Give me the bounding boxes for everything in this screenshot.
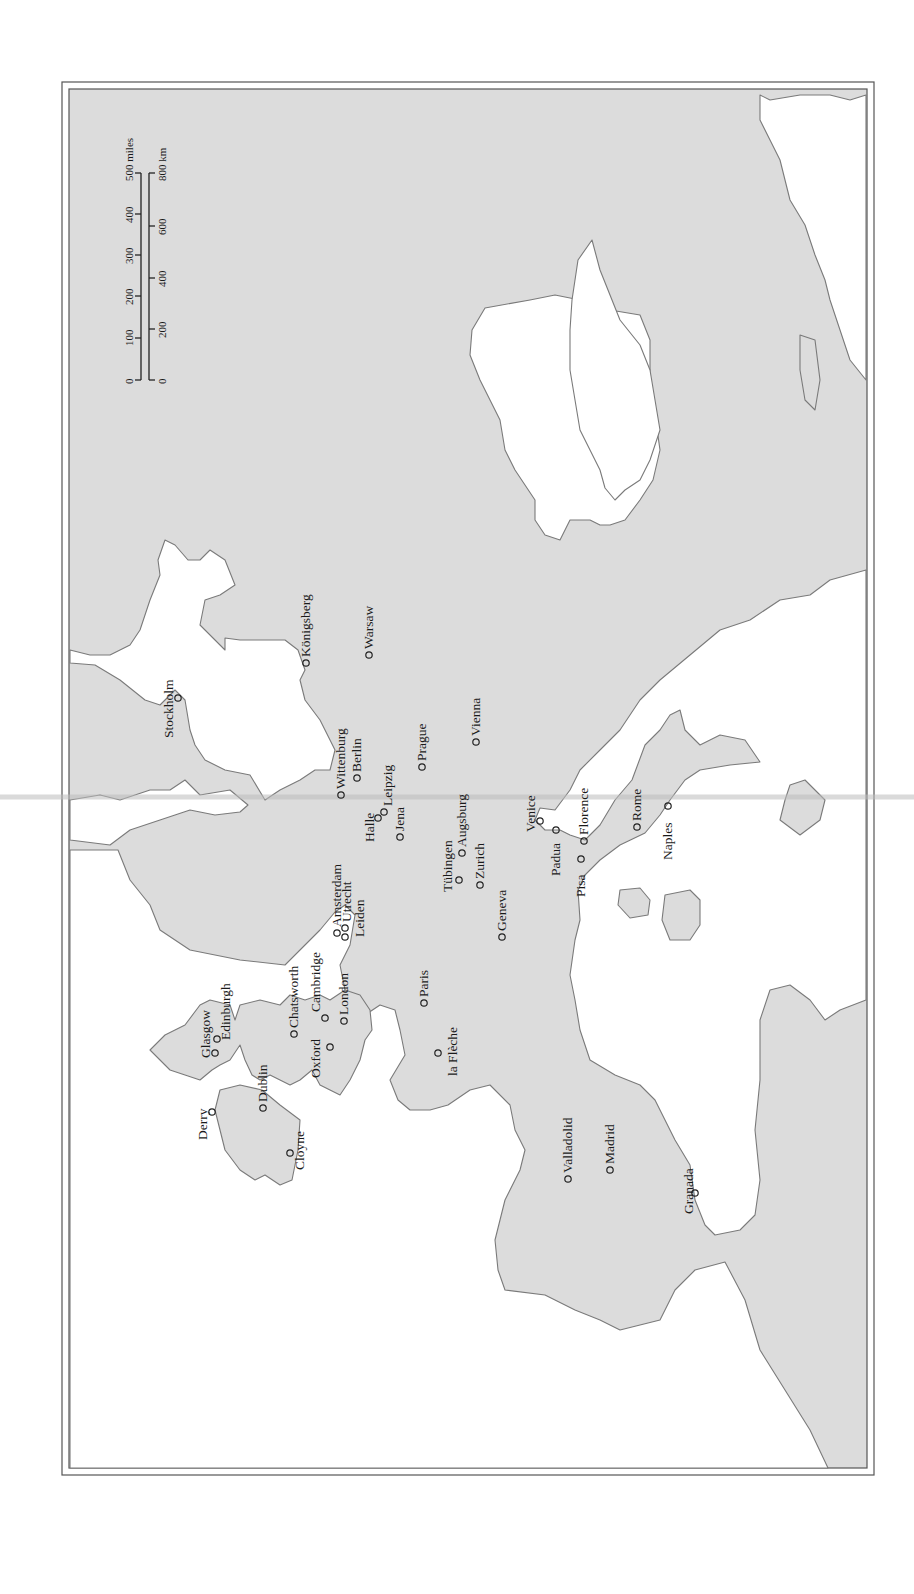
svg-text:Tübingen: Tübingen — [440, 840, 455, 892]
city-florence: Florence — [576, 788, 591, 844]
city-augsburg: Augsburg — [454, 794, 469, 856]
svg-text:Padua: Padua — [548, 843, 563, 876]
svg-text:Dublin: Dublin — [255, 1064, 270, 1102]
city-wittenburg: Wittenburg — [333, 728, 348, 798]
svg-text:Florence: Florence — [576, 788, 591, 835]
city-chatsworth: Chatsworth — [286, 966, 301, 1038]
svg-text:Geneva: Geneva — [494, 890, 509, 931]
europe-map: 0 100 200 300 400 500 miles 0 200 400 60… — [0, 0, 914, 1594]
svg-text:Stockholm: Stockholm — [161, 679, 176, 738]
svg-text:Halle: Halle — [362, 813, 377, 842]
svg-text:Venice: Venice — [523, 795, 538, 832]
svg-text:la Flèche: la Flèche — [445, 1027, 460, 1076]
svg-text:Prague: Prague — [414, 724, 429, 762]
svg-text:Naples: Naples — [660, 823, 675, 861]
scale-miles-tick-300: 300 — [123, 247, 135, 264]
svg-text:Edinburgh: Edinburgh — [218, 983, 233, 1040]
scale-miles-unit: 500 miles — [123, 138, 135, 181]
scale-miles-tick-400: 400 — [123, 206, 135, 223]
svg-text:Berlin: Berlin — [349, 738, 364, 772]
svg-text:Madrid: Madrid — [602, 1124, 617, 1164]
svg-text:Wittenburg: Wittenburg — [333, 728, 348, 789]
svg-text:Granada: Granada — [681, 1168, 696, 1214]
svg-text:Cambridge: Cambridge — [308, 952, 323, 1012]
svg-text:Vienna: Vienna — [468, 698, 483, 736]
scale-km-tick-400: 400 — [156, 270, 168, 287]
svg-text:Rome: Rome — [629, 789, 644, 821]
svg-text:Pisa: Pisa — [573, 874, 588, 897]
city-granada: Granada — [681, 1168, 698, 1214]
svg-text:Paris: Paris — [416, 970, 431, 997]
scale-km-tick-200: 200 — [156, 321, 168, 338]
svg-text:London: London — [336, 973, 351, 1015]
svg-text:Valladolid: Valladolid — [560, 1117, 575, 1173]
scale-km-tick-0: 0 — [156, 378, 168, 384]
svg-text:Cloyne: Cloyne — [292, 1131, 307, 1170]
svg-text:Jena: Jena — [392, 807, 407, 831]
svg-text:Warsaw: Warsaw — [361, 606, 376, 649]
svg-text:Leiden: Leiden — [352, 899, 367, 937]
scale-miles-tick-0: 0 — [123, 378, 135, 384]
city-valladolid: Valladolid — [560, 1117, 575, 1182]
scale-miles-tick-200: 200 — [123, 288, 135, 305]
svg-text:Augsburg: Augsburg — [454, 794, 469, 847]
svg-text:Oxford: Oxford — [308, 1039, 323, 1078]
scale-km-tick-600: 600 — [156, 218, 168, 235]
svg-text:Derry: Derry — [195, 1108, 210, 1140]
svg-text:Glasgow: Glasgow — [198, 1010, 213, 1058]
svg-text:Zurich: Zurich — [472, 843, 487, 879]
sardinia — [662, 890, 700, 940]
city-konigsberg: Königsberg — [298, 594, 313, 666]
svg-text:Leipzig: Leipzig — [380, 765, 395, 806]
svg-text:Königsberg: Königsberg — [298, 594, 313, 657]
svg-text:Chatsworth: Chatsworth — [286, 966, 301, 1028]
scale-km-unit: 800 km — [156, 147, 168, 181]
scale-miles-tick-100: 100 — [123, 329, 135, 346]
